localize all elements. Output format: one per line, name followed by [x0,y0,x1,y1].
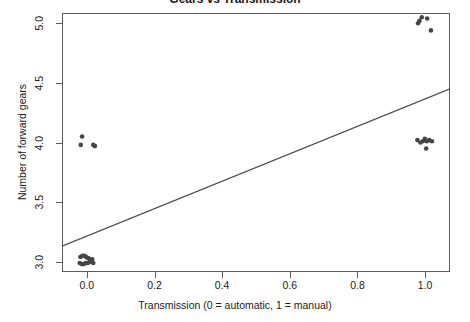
y-tick-mark [56,23,62,24]
x-tick-mark [155,272,156,278]
x-tick-label: 0.4 [202,280,242,291]
x-tick-label: 0.8 [337,280,377,291]
plot-data-layer [62,13,450,272]
y-tick-label: 4.0 [34,128,45,158]
chart-title-text: Gears vs Transmission [0,0,470,5]
x-tick-mark [222,272,223,278]
data-point [93,144,98,149]
fit-line [62,89,450,246]
x-tick-label: 0.6 [270,280,310,291]
y-tick-mark [56,262,62,263]
y-axis-title: Number of forward gears [16,62,28,222]
data-point [91,261,96,266]
x-axis-title: Transmission (0 = automatic, 1 = manual) [0,299,470,311]
y-tick-mark [56,202,62,203]
x-tick-label: 1.0 [405,280,445,291]
y-tick-mark [56,143,62,144]
chart-title-clipped: Gears vs Transmission [0,0,470,7]
x-tick-label: 0.2 [135,280,175,291]
data-point [425,16,430,21]
scatter-plot-figure: Gears vs Transmission 3.03.54.04.55.0 0.… [0,0,470,322]
y-tick-mark [56,83,62,84]
y-tick-label: 5.0 [34,9,45,39]
x-tick-mark [87,272,88,278]
data-point [429,28,434,33]
data-point [419,15,424,20]
x-tick-label: 0.0 [67,280,107,291]
y-tick-label: 4.5 [34,68,45,98]
x-tick-mark [357,272,358,278]
y-tick-label: 3.0 [34,247,45,277]
data-point [424,146,429,151]
x-tick-mark [290,272,291,278]
regression-line [62,89,450,246]
scatter-points-group [77,15,434,266]
data-point [80,134,85,139]
y-tick-label: 3.5 [34,187,45,217]
data-point [430,139,435,144]
x-tick-mark [425,272,426,278]
data-point [78,143,83,148]
